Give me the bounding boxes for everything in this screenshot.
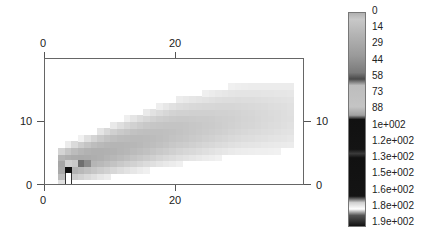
x-tick-label-top-0: 0 — [40, 38, 46, 49]
heatmap-cell — [176, 160, 183, 167]
y-tick-label-left-0: 0 — [26, 180, 32, 191]
colorbar-tick-label: 73 — [372, 87, 383, 97]
x-tick-bottom-0 — [44, 185, 45, 191]
colorbar-tick-label: 1e+002 — [372, 120, 406, 130]
y-tick-left-0 — [37, 184, 44, 185]
heatmap-cell — [274, 148, 281, 155]
colorbar-tick-label: 29 — [372, 38, 383, 48]
heatmap-cell — [215, 154, 222, 161]
heatmap-cell — [287, 90, 294, 97]
colorbar-tick-label: 14 — [372, 22, 383, 32]
heatmap-cell — [287, 122, 294, 129]
y-tick-label-left-10: 10 — [20, 116, 32, 127]
x-tick-top-20 — [175, 52, 176, 58]
y-tick-label-right-0: 0 — [316, 180, 322, 191]
heatmap-highlight-cell — [65, 160, 72, 167]
y-tick-right-10 — [304, 121, 311, 122]
heatmap-plot-area — [44, 58, 304, 185]
x-tick-top-0 — [44, 52, 45, 58]
heatmap-cell — [287, 141, 294, 148]
heatmap-cell — [287, 103, 294, 110]
heatmap-cell — [287, 135, 294, 142]
y-tick-label-right-10: 10 — [316, 116, 328, 127]
heatmap-cell — [287, 109, 294, 116]
colorbar-tick-label: 1.2e+002 — [372, 136, 414, 146]
colorbar-tick-label: 1.8e+002 — [372, 201, 414, 211]
colorbar-tick-label: 1.9e+002 — [372, 217, 414, 227]
x-tick-bottom-20 — [175, 185, 176, 191]
colorbar-tick-label: 88 — [372, 103, 383, 113]
heatmap-highlight-cell — [84, 160, 91, 167]
heatmap-cell — [287, 115, 294, 122]
colorbar — [348, 12, 366, 227]
heatmap-cell — [287, 128, 294, 135]
colorbar-tick-label: 0 — [372, 6, 378, 16]
colorbar-tick-label: 1.5e+002 — [372, 168, 414, 178]
colorbar-tick-label: 58 — [372, 71, 383, 81]
heatmap-cell — [287, 96, 294, 103]
colorbar-tick-label: 44 — [372, 55, 383, 65]
colorbar-tick-label: 1.3e+002 — [372, 152, 414, 162]
x-tick-label-top-20: 20 — [169, 38, 181, 49]
heatmap-cell — [104, 173, 111, 180]
x-tick-label-bottom-20: 20 — [169, 195, 181, 206]
heatmap-highlight-cell — [65, 180, 72, 185]
y-tick-left-10 — [37, 121, 44, 122]
colorbar-tick-label: 1.6e+002 — [372, 185, 414, 195]
heatmap-cell — [287, 83, 294, 90]
y-tick-right-0 — [304, 184, 311, 185]
x-tick-label-bottom-0: 0 — [40, 195, 46, 206]
heatmap-cell — [143, 167, 150, 174]
